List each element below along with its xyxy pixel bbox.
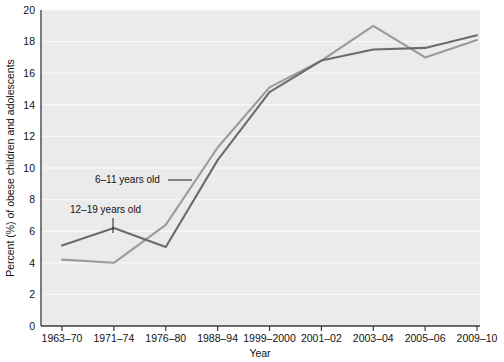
y-tick-label: 2 bbox=[29, 288, 35, 300]
obesity-trend-line-chart: 02468101214161820 1963–701971–741976–801… bbox=[0, 0, 504, 362]
x-axis-ticks bbox=[62, 326, 477, 331]
x-axis-label: Year bbox=[249, 347, 271, 359]
y-tick-label: 18 bbox=[23, 35, 35, 47]
x-tick-label: 2003–04 bbox=[353, 332, 394, 344]
y-tick-label: 10 bbox=[23, 162, 35, 174]
x-tick-label: 1988–94 bbox=[197, 332, 238, 344]
y-tick-label: 12 bbox=[23, 130, 35, 142]
y-tick-label: 8 bbox=[29, 193, 35, 205]
series-annotation-label: 12–19 years old bbox=[70, 204, 141, 215]
x-axis-tick-labels: 1963–701971–741976–801988–941999–2000200… bbox=[42, 332, 498, 344]
series-annotation-label: 6–11 years old bbox=[95, 174, 160, 185]
y-tick-label: 20 bbox=[23, 4, 35, 16]
y-tick-label: 14 bbox=[23, 99, 35, 111]
x-tick-label: 1963–70 bbox=[42, 332, 83, 344]
chart-figure: 02468101214161820 1963–701971–741976–801… bbox=[0, 0, 504, 362]
x-tick-label: 1976–80 bbox=[145, 332, 186, 344]
x-tick-label: 1971–74 bbox=[93, 332, 134, 344]
x-tick-label: 2005–06 bbox=[405, 332, 446, 344]
y-tick-label: 16 bbox=[23, 67, 35, 79]
y-axis-tick-labels: 02468101214161820 bbox=[23, 4, 35, 332]
x-tick-label: 1999–2000 bbox=[243, 332, 296, 344]
y-tick-label: 0 bbox=[29, 320, 35, 332]
y-tick-label: 4 bbox=[29, 257, 35, 269]
x-tick-label: 2001–02 bbox=[301, 332, 342, 344]
y-axis-label: Percent (%) of obese children and adoles… bbox=[4, 59, 16, 277]
y-tick-label: 6 bbox=[29, 225, 35, 237]
x-tick-label: 2009–10 bbox=[457, 332, 498, 344]
